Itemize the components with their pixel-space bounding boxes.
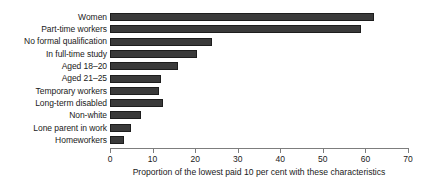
category-label: Aged 21–25 <box>62 73 107 83</box>
bar <box>110 13 374 21</box>
tick-label: 70 <box>396 154 420 164</box>
category-label: No formal qualification <box>24 36 107 46</box>
tick-mark <box>280 149 281 153</box>
bar <box>110 136 124 144</box>
tick-mark <box>195 149 196 153</box>
tick-label: 0 <box>98 154 122 164</box>
tick-mark <box>408 149 409 153</box>
category-label: Women <box>78 12 107 22</box>
category-label: Aged 18–20 <box>62 61 107 71</box>
bar <box>110 25 361 33</box>
bar <box>110 99 163 107</box>
tick-mark <box>238 149 239 153</box>
bar <box>110 124 131 132</box>
category-label: Homeworkers <box>55 135 107 145</box>
bar <box>110 87 159 95</box>
x-axis-title: Proportion of the lowest paid 10 per cen… <box>110 167 408 178</box>
bar <box>110 111 141 119</box>
bar <box>110 62 178 70</box>
tick-label: 20 <box>183 154 207 164</box>
tick-label: 30 <box>226 154 250 164</box>
bar <box>110 75 161 83</box>
category-label: Lone parent in work <box>33 123 107 133</box>
tick-label: 60 <box>353 154 377 164</box>
tick-mark <box>110 149 111 153</box>
category-label: Non-white <box>69 110 107 120</box>
tick-label: 50 <box>311 154 335 164</box>
category-label: Long-term disabled <box>35 98 107 108</box>
bar <box>110 50 197 58</box>
tick-mark <box>153 149 154 153</box>
category-label: Part-time workers <box>41 24 107 34</box>
tick-label: 40 <box>268 154 292 164</box>
bar <box>110 38 212 46</box>
tick-mark <box>323 149 324 153</box>
category-label: Temporary workers <box>36 86 107 96</box>
x-axis-line <box>110 148 409 149</box>
horizontal-bar-chart: WomenPart-time workersNo formal qualific… <box>0 0 426 185</box>
tick-label: 10 <box>141 154 165 164</box>
category-label: In full-time study <box>46 49 107 59</box>
tick-mark <box>365 149 366 153</box>
